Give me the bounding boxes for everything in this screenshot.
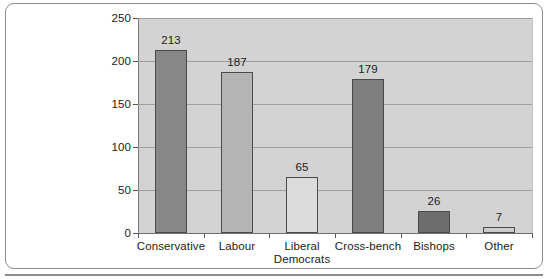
y-axis-label-50: 50 [118, 185, 131, 197]
x-axis-line [138, 233, 533, 234]
y-axis-label-100: 100 [112, 142, 132, 154]
y-axis-label-0: 0 [125, 228, 132, 240]
x-axis-label-cross-bench: Cross-bench [333, 240, 403, 253]
y-tick-50 [133, 190, 138, 191]
bar-value-conservative: 213 [141, 35, 201, 47]
bar-liberal-democrats [286, 177, 318, 233]
y-axis-label-250: 250 [112, 13, 132, 25]
plot-right-edge [532, 18, 533, 233]
x-axis-label-bishops: Bishops [399, 240, 469, 253]
x-axis-label-liberal-democrats: Liberal Democrats [267, 240, 337, 265]
bar-value-cross-bench: 179 [338, 64, 398, 76]
bar-bishops [418, 211, 450, 233]
plot-area [138, 18, 532, 233]
bar-labour [221, 72, 253, 233]
bar-value-labour: 187 [207, 57, 267, 69]
bar-conservative [155, 50, 187, 233]
y-tick-200 [133, 61, 138, 62]
bar-chart: 250 200 150 100 50 0 213 187 65 179 26 7… [0, 0, 548, 279]
bar-value-bishops: 26 [404, 196, 464, 208]
x-axis-label-other: Other [464, 240, 534, 253]
bar-cross-bench [352, 79, 384, 233]
y-tick-150 [133, 104, 138, 105]
gridline-150 [138, 104, 532, 105]
y-axis-label-150: 150 [112, 99, 132, 111]
x-axis-label-conservative: Conservative [136, 240, 206, 253]
y-tick-100 [133, 147, 138, 148]
y-axis-label-200: 200 [112, 56, 132, 68]
y-tick-250 [133, 18, 138, 19]
gridline-50 [138, 190, 532, 191]
gridline-200 [138, 61, 532, 62]
gridline-250 [138, 18, 532, 19]
bar-value-liberal-democrats: 65 [272, 162, 332, 174]
bar-value-other: 7 [469, 212, 529, 224]
x-axis-label-labour: Labour [202, 240, 272, 253]
gridline-100 [138, 147, 532, 148]
